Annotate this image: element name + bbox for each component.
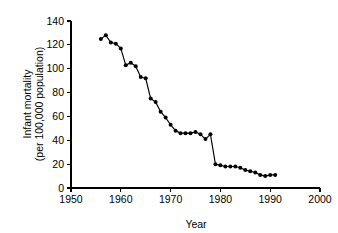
y-axis-title-line-1: Infant mortality — [21, 69, 33, 139]
data-point-marker — [253, 170, 257, 174]
data-point-marker — [263, 174, 267, 178]
data-point-marker — [223, 165, 227, 169]
data-point-marker — [129, 61, 133, 65]
data-point-marker — [144, 76, 148, 80]
data-point-marker — [218, 163, 222, 167]
data-point-marker — [159, 110, 163, 114]
x-tick-label: 1990 — [259, 193, 283, 205]
data-point-marker — [124, 63, 128, 67]
y-tick-label: 80 — [52, 86, 64, 98]
axis-spines — [71, 21, 320, 188]
data-point-marker — [273, 173, 277, 177]
data-point-marker — [194, 130, 198, 134]
data-point-marker — [198, 132, 202, 136]
y-axis-title-line-2: (per 100,000 population) — [33, 47, 45, 161]
data-point-marker — [119, 46, 123, 50]
data-point-marker — [134, 64, 138, 68]
chart-plot-area: 020406080100120140 195019601970198019902… — [0, 0, 338, 233]
y-axis-ticks — [67, 21, 71, 188]
data-point-marker — [213, 162, 217, 166]
data-point-marker — [139, 75, 143, 79]
data-point-marker — [154, 100, 158, 104]
series-line — [101, 35, 275, 176]
data-point-marker — [104, 33, 108, 37]
data-point-marker — [268, 173, 272, 177]
data-point-marker — [243, 168, 247, 172]
chart-axes — [71, 21, 320, 188]
x-axis-title: Year — [185, 218, 207, 230]
data-point-marker — [174, 129, 178, 133]
data-point-marker — [99, 37, 103, 41]
data-point-marker — [233, 165, 237, 169]
y-tick-label: 60 — [52, 110, 64, 122]
data-point-marker — [184, 131, 188, 135]
x-axis-ticks — [71, 188, 320, 192]
x-tick-label: 2000 — [308, 193, 332, 205]
x-tick-label: 1970 — [159, 193, 183, 205]
y-tick-label: 120 — [46, 38, 64, 50]
data-point-marker — [114, 42, 118, 46]
data-point-marker — [238, 166, 242, 170]
data-point-marker — [248, 169, 252, 173]
y-tick-label: 20 — [52, 158, 64, 170]
data-series-infant-mortality — [99, 33, 277, 178]
data-point-marker — [169, 123, 173, 127]
x-axis-tick-labels: 195019601970198019902000 — [59, 193, 332, 205]
data-point-marker — [208, 132, 212, 136]
y-tick-label: 0 — [58, 182, 64, 194]
data-point-marker — [203, 137, 207, 141]
x-tick-label: 1950 — [59, 193, 83, 205]
x-tick-label: 1960 — [109, 193, 133, 205]
y-tick-label: 40 — [52, 134, 64, 146]
y-tick-label: 140 — [46, 15, 64, 27]
infant-mortality-chart: 020406080100120140 195019601970198019902… — [0, 0, 338, 233]
data-point-marker — [149, 97, 153, 101]
y-axis-tick-labels: 020406080100120140 — [46, 15, 64, 194]
y-tick-label: 100 — [46, 62, 64, 74]
data-point-marker — [179, 131, 183, 135]
data-point-marker — [109, 40, 113, 44]
data-point-marker — [164, 116, 168, 120]
data-point-marker — [228, 165, 232, 169]
x-tick-label: 1980 — [209, 193, 233, 205]
data-point-marker — [258, 173, 262, 177]
data-point-marker — [189, 131, 193, 135]
